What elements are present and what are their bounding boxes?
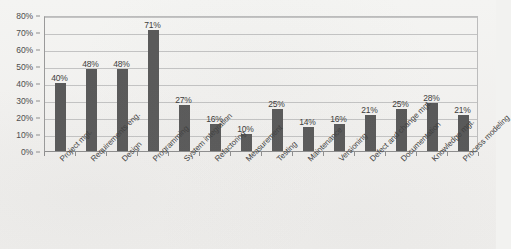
y-axis-tick-label: 0% <box>21 147 33 157</box>
y-axis: 0%10%20%30%40%50%60%70%80% <box>0 16 40 152</box>
bar-value-label: 48% <box>113 59 130 69</box>
y-axis-tick-mark <box>36 152 40 153</box>
x-axis-tick-mark <box>168 152 169 156</box>
bar-value-label: 48% <box>82 59 99 69</box>
x-axis-tick-mark <box>75 152 76 156</box>
y-axis-tick-mark <box>36 101 40 102</box>
x-axis-tick-mark <box>106 152 107 156</box>
bar-value-label: 16% <box>206 114 223 124</box>
x-axis-tick-mark <box>323 152 324 156</box>
y-axis-tick-label: 60% <box>16 45 33 55</box>
bar-value-label: 27% <box>175 95 192 105</box>
bar-value-label: 16% <box>330 114 347 124</box>
y-axis-tick-label: 40% <box>16 79 33 89</box>
x-axis-tick-mark <box>292 152 293 156</box>
bar-value-label: 25% <box>268 99 285 109</box>
plot-area <box>44 16 478 152</box>
x-axis-tick-mark <box>261 152 262 156</box>
bar-value-label: 71% <box>144 20 161 30</box>
x-axis-tick-mark <box>199 152 200 156</box>
bar-value-label: 25% <box>392 99 409 109</box>
x-axis-tick-mark <box>137 152 138 156</box>
y-axis-tick-mark <box>36 67 40 68</box>
y-axis-tick-mark <box>36 118 40 119</box>
bar-value-label: 21% <box>454 105 471 115</box>
gridline <box>45 51 477 52</box>
gridline <box>45 102 477 103</box>
y-axis-tick-mark <box>36 33 40 34</box>
y-axis-tick-mark <box>36 84 40 85</box>
y-axis-tick-mark <box>36 16 40 17</box>
y-axis-tick-mark <box>36 135 40 136</box>
bar <box>303 127 314 151</box>
x-axis-tick-mark <box>230 152 231 156</box>
x-axis-tick-mark <box>447 152 448 156</box>
bar-value-label: 14% <box>299 117 316 127</box>
y-axis-tick-mark <box>36 50 40 51</box>
x-axis-tick-mark <box>44 152 45 156</box>
gridline <box>45 85 477 86</box>
x-axis-tick-mark <box>478 152 479 156</box>
x-axis-tick-mark <box>416 152 417 156</box>
y-axis-tick-label: 30% <box>16 96 33 106</box>
y-axis-tick-label: 50% <box>16 62 33 72</box>
bar-value-label: 21% <box>361 105 378 115</box>
bar-value-label: 28% <box>423 93 440 103</box>
bar <box>148 30 159 151</box>
x-axis-tick-mark <box>354 152 355 156</box>
gridline <box>45 17 477 18</box>
bar <box>365 115 376 151</box>
y-axis-tick-label: 20% <box>16 113 33 123</box>
y-axis-tick-label: 70% <box>16 28 33 38</box>
bar-value-label: 40% <box>51 73 68 83</box>
gridline <box>45 68 477 69</box>
gridline <box>45 34 477 35</box>
bar-value-label: 10% <box>237 124 254 134</box>
x-axis-tick-mark <box>385 152 386 156</box>
y-axis-tick-label: 10% <box>16 130 33 140</box>
y-axis-tick-label: 80% <box>16 11 33 21</box>
bar <box>55 83 66 151</box>
